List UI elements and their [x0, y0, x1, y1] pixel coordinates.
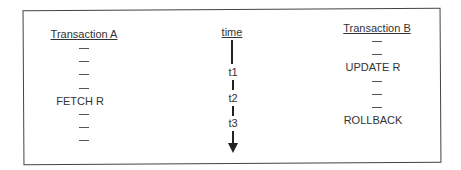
time-axis [0, 0, 461, 170]
arrow-head-icon [228, 143, 238, 153]
